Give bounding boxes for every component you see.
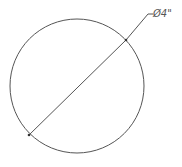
leader-line (126, 14, 153, 40)
diameter-line (29, 40, 126, 135)
drawing-canvas: Ø4" (0, 0, 182, 167)
dimension-label: Ø4" (152, 8, 172, 19)
diameter-endpoint-lower (28, 134, 31, 137)
diameter-endpoint-upper (125, 39, 128, 42)
circle-diagram: Ø4" (0, 0, 182, 167)
circle-outline (10, 19, 144, 153)
